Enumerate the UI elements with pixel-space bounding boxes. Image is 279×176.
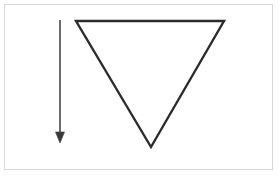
downward-arrow-group bbox=[56, 20, 65, 143]
figure-drawing-area bbox=[0, 0, 279, 176]
figure-canvas bbox=[0, 0, 279, 176]
inverted-triangle-shape bbox=[76, 21, 224, 147]
arrow-head-icon bbox=[56, 132, 65, 143]
